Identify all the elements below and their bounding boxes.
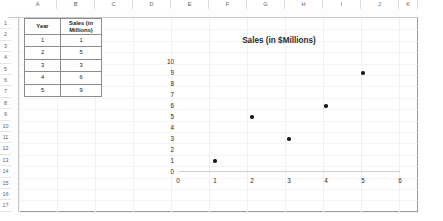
spreadsheet-canvas: ABCDEFGHIJK 1234567891011121314151617 Ye… [0,0,443,221]
row-header-12[interactable]: 12 [0,143,11,154]
y-tick-label: 3 [158,136,174,142]
scatter-point [361,71,364,74]
row-header-16[interactable]: 16 [0,189,11,200]
y-tick-label: 1 [158,158,174,164]
y-tick-label: 9 [158,70,174,76]
cell-sales-4[interactable]: 6 [61,72,102,84]
column-header-d[interactable]: D [133,0,171,9]
chart-plot-area: 012345678910 0123456 [178,62,400,172]
table-row: 11 [25,35,102,47]
grid-line-vertical [19,18,20,212]
y-tick-label: 4 [158,125,174,131]
x-tick-label: 3 [281,178,297,184]
row-header-4[interactable]: 4 [0,52,11,63]
y-tick-label: 2 [158,147,174,153]
row-header-15[interactable]: 15 [0,178,11,189]
y-tick-label: 8 [158,81,174,87]
x-tick-label: 6 [392,178,408,184]
row-header-7[interactable]: 7 [0,86,11,97]
column-header-f[interactable]: F [209,0,247,9]
row-header-11[interactable]: 11 [0,132,11,143]
cell-year-4[interactable]: 4 [25,72,61,84]
x-tick-label: 5 [355,178,371,184]
table-header-row: Year Sales (in Millions) [25,19,102,35]
x-tick-label: 2 [244,178,260,184]
y-tick-label: 10 [158,59,174,65]
table-row: 46 [25,72,102,84]
column-header-i[interactable]: I [323,0,361,9]
header-sales-line1: Sales (in [69,20,93,26]
cell-sales-2[interactable]: 5 [61,47,102,59]
column-header-k[interactable]: K [399,0,418,9]
x-axis-line [178,171,400,172]
scatter-point [213,159,216,162]
header-cell-year[interactable]: Year [25,19,61,35]
y-tick-label: 0 [158,169,174,175]
column-header-j[interactable]: J [361,0,399,9]
row-header-9[interactable]: 9 [0,109,11,120]
header-sales-line2: Millions) [69,27,93,33]
x-tick-label: 0 [170,178,186,184]
column-header-b[interactable]: B [57,0,95,9]
grid-line-vertical [133,18,134,212]
y-tick-label: 6 [158,103,174,109]
scatter-point [324,104,327,107]
column-header-g[interactable]: G [247,0,285,9]
row-header-17[interactable]: 17 [0,200,11,211]
row-header-6[interactable]: 6 [0,75,11,86]
cell-year-1[interactable]: 1 [25,35,61,47]
scatter-point [250,115,253,118]
chart-title: Sales (in $Millions) [150,36,408,45]
table-row: 33 [25,59,102,71]
cell-sales-5[interactable]: 9 [61,84,102,96]
column-header-row [8,9,418,18]
row-header-3[interactable]: 3 [0,41,11,52]
column-header-h[interactable]: H [285,0,323,9]
cell-year-2[interactable]: 2 [25,47,61,59]
table-row: 25 [25,47,102,59]
cell-sales-3[interactable]: 3 [61,59,102,71]
table-row: 59 [25,84,102,96]
row-header-14[interactable]: 14 [0,166,11,177]
row-header-2[interactable]: 2 [0,29,11,40]
data-table[interactable]: Year Sales (in Millions) 1125334659 [24,18,102,97]
row-header-10[interactable]: 10 [0,121,11,132]
x-tick-label: 4 [318,178,334,184]
y-tick-label: 5 [158,114,174,120]
scatter-point [287,137,290,140]
grid-line-horizontal [19,212,418,213]
scatter-chart[interactable]: Sales (in $Millions) 012345678910 012345… [150,36,408,201]
row-header-5[interactable]: 5 [0,64,11,75]
column-header-c[interactable]: C [95,0,133,9]
row-header-1[interactable]: 1 [0,18,11,29]
column-header-e[interactable]: E [171,0,209,9]
header-cell-sales[interactable]: Sales (in Millions) [61,19,102,35]
cell-year-5[interactable]: 5 [25,84,61,96]
column-header-a[interactable]: A [19,0,57,9]
y-tick-label: 7 [158,92,174,98]
x-tick-label: 1 [207,178,223,184]
row-header-13[interactable]: 13 [0,155,11,166]
cell-sales-1[interactable]: 1 [61,35,102,47]
row-header-8[interactable]: 8 [0,98,11,109]
cell-year-3[interactable]: 3 [25,59,61,71]
